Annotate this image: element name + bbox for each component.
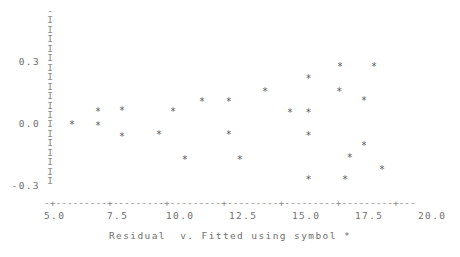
- xtick-label-0: 5.0: [44, 210, 65, 221]
- data-point: *: [225, 97, 232, 107]
- data-point: *: [360, 96, 367, 106]
- residual-vs-fitted-scatter-plot: 0.3 0.0 -0.3 -IIIIIIIIIIIIIIIIII *******…: [0, 0, 460, 257]
- data-point: *: [95, 107, 102, 117]
- xtick-label-1: 7.5: [107, 210, 128, 221]
- data-point: *: [119, 106, 126, 116]
- xtick-label-5: 17.5: [355, 210, 383, 221]
- data-point: *: [305, 74, 312, 84]
- data-point: *: [198, 97, 205, 107]
- data-point: *: [305, 131, 312, 141]
- data-point: *: [261, 87, 268, 97]
- data-point: *: [305, 108, 312, 118]
- ytick-label-0: 0.3: [0, 57, 40, 67]
- data-point: *: [346, 153, 353, 163]
- data-point: *: [287, 108, 294, 118]
- data-point: *: [119, 132, 126, 142]
- data-point: *: [360, 141, 367, 151]
- data-point: *: [95, 121, 102, 131]
- data-point: *: [336, 87, 343, 97]
- data-point: *: [371, 62, 378, 72]
- data-point: *: [169, 107, 176, 117]
- xtick-label-4: 15.0: [292, 210, 320, 221]
- chart-caption: Residual v. Fitted using symbol *: [0, 230, 460, 241]
- ytick-label-1: 0.0: [0, 119, 40, 129]
- data-point: *: [156, 130, 163, 140]
- data-point: *: [305, 175, 312, 185]
- xtick-label-2: 10.0: [166, 210, 194, 221]
- data-point: *: [69, 120, 76, 130]
- data-point: *: [225, 130, 232, 140]
- data-point: *: [342, 175, 349, 185]
- data-point: *: [181, 155, 188, 165]
- y-axis-glyph: I: [44, 176, 56, 185]
- data-point: *: [336, 62, 343, 72]
- xtick-label-3: 12.5: [229, 210, 257, 221]
- xtick-label-6: 20.0: [418, 210, 446, 221]
- data-point: *: [236, 155, 243, 165]
- x-axis: -+---------+---------+---------+--------…: [44, 198, 416, 208]
- y-axis: -IIIIIIIIIIIIIIIIII: [44, 6, 56, 186]
- ytick-label-2: -0.3: [0, 181, 40, 191]
- data-point: *: [379, 165, 386, 175]
